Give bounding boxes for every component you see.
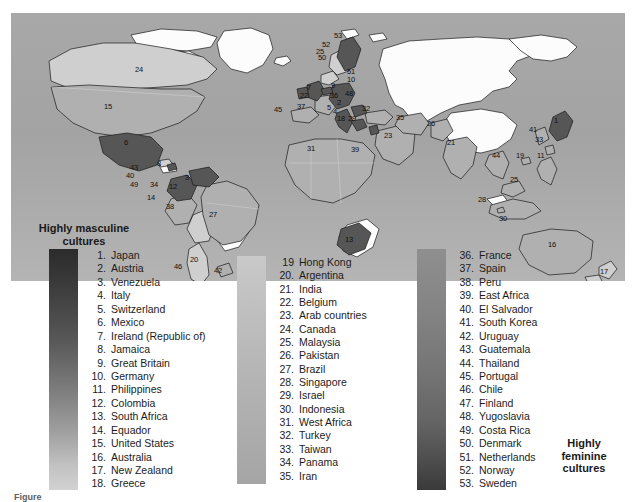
list-item: 14.Equador <box>89 424 206 437</box>
list-item-country: Arab countries <box>294 309 367 322</box>
list-item-number: 29. <box>277 389 294 402</box>
list-item-number: 34. <box>277 456 294 469</box>
list-item-number: 50. <box>457 437 474 450</box>
list-item-country: Finland <box>474 397 513 410</box>
list-item: 35.Iran <box>277 470 367 483</box>
list-item: 36.France <box>457 249 537 262</box>
list-item-country: Panama <box>294 456 338 469</box>
map-country-number: 12 <box>169 183 177 191</box>
list-item-number: 35. <box>277 470 294 483</box>
list-item-number: 11. <box>89 383 106 396</box>
list-item: 42.Uruguay <box>457 330 537 343</box>
country-list-2: 19Hong Kong20.Argentina21.India22.Belgiu… <box>266 256 367 483</box>
list-item: 24.Canada <box>277 323 367 336</box>
list-item: 6.Mexico <box>89 316 206 329</box>
legend-column-2: 19Hong Kong20.Argentina21.India22.Belgiu… <box>237 256 367 484</box>
list-item: 52.Norway <box>457 464 537 477</box>
list-item-country: Spain <box>474 262 506 275</box>
list-item: 2.Austria <box>89 262 206 275</box>
map-country-number: 14 <box>147 194 155 202</box>
list-item: 10.Germany <box>89 370 206 383</box>
map-country-number: 25 <box>510 176 518 184</box>
list-item-country: Israel <box>294 389 325 402</box>
list-item-country: New Zealand <box>106 464 173 477</box>
map-country-number: 50 <box>318 54 326 62</box>
list-item-country: Malaysia <box>294 336 340 349</box>
list-item-number: 27. <box>277 363 294 376</box>
list-item-country: Australia <box>106 451 152 464</box>
map-country-number: 9 <box>331 82 335 90</box>
list-item-country: Switzerland <box>106 303 165 316</box>
map-country-number: 27 <box>209 211 217 219</box>
map-country-number: 26 <box>427 120 435 128</box>
list-item-country: Hong Kong <box>294 256 352 269</box>
masculine-legend-title: Highly masculine cultures <box>14 222 154 247</box>
map-country-number: 1 <box>554 117 558 125</box>
list-item-country: Belgium <box>294 296 337 309</box>
list-item: 13.South Africa <box>89 410 206 423</box>
map-country-number: 23 <box>384 132 392 140</box>
list-item: 29.Israel <box>277 389 367 402</box>
list-item-country: Taiwan <box>294 443 332 456</box>
list-item: 46.Chile <box>457 383 537 396</box>
map-country-number: 18 <box>337 115 345 123</box>
caption-label: Figure <box>14 492 42 502</box>
list-item-number: 52. <box>457 464 474 477</box>
list-item-number: 36. <box>457 249 474 262</box>
map-country-number: 31 <box>307 145 315 153</box>
list-item-number: 39. <box>457 289 474 302</box>
list-item-number: 17. <box>89 464 106 477</box>
list-item: 41.South Korea <box>457 316 537 329</box>
list-item: 18.Greece <box>89 477 206 490</box>
list-item-number: 4. <box>89 289 106 302</box>
map-country-number: 29 <box>348 115 356 123</box>
map-country-number: 42 <box>214 267 222 275</box>
list-item-number: 20. <box>277 269 294 282</box>
list-item-number: 38. <box>457 276 474 289</box>
figure-caption: Figure <box>14 492 624 502</box>
map-country-number: 21 <box>447 139 455 147</box>
map-country-number: 2 <box>337 99 341 107</box>
masculine-title-line2: cultures <box>63 235 106 247</box>
list-item-country: Greece <box>106 477 145 490</box>
list-item: 43.Guatemala <box>457 343 537 356</box>
list-item: 53.Sweden <box>457 477 537 490</box>
list-item-number: 26. <box>277 349 294 362</box>
list-item: 51.Netherlands <box>457 451 537 464</box>
list-item-country: Equador <box>106 424 151 437</box>
list-item-number: 51. <box>457 451 474 464</box>
map-country-number: 39 <box>351 146 359 154</box>
list-item-country: Brazil <box>294 363 325 376</box>
list-item: 21.India <box>277 283 367 296</box>
legend-column-1: 1.Japan2.Austria3.Venezuela4.Italy5.Swit… <box>49 249 206 491</box>
list-item-country: Uruguay <box>474 330 519 343</box>
map-country-number: 6 <box>124 139 128 147</box>
map-country-number: 3 <box>185 174 189 182</box>
list-item: 50.Denmark <box>457 437 537 450</box>
list-item-number: 21. <box>277 283 294 296</box>
list-item: 1.Japan <box>89 249 206 262</box>
map-country-number: 13 <box>345 236 353 244</box>
list-item: 22.Belgium <box>277 296 367 309</box>
list-item-country: Japan <box>106 249 140 262</box>
map-country-number: 32 <box>362 105 370 113</box>
list-item-country: Canada <box>294 323 336 336</box>
list-item: 11.Philippines <box>89 383 206 396</box>
map-country-number: 34 <box>150 181 158 189</box>
list-item-country: Jamaica <box>106 343 150 356</box>
list-item: 33.Taiwan <box>277 443 367 456</box>
list-item-country: Denmark <box>474 437 522 450</box>
list-item-country: Guatemala <box>474 343 530 356</box>
list-item: 15.United States <box>89 437 206 450</box>
list-item: 25.Malaysia <box>277 336 367 349</box>
list-item-number: 31. <box>277 416 294 429</box>
list-item: 32.Turkey <box>277 429 367 442</box>
list-item: 20.Argentina <box>277 269 367 282</box>
list-item: 49.Costa Rica <box>457 424 537 437</box>
list-item-country: Argentina <box>294 269 344 282</box>
map-country-number: 45 <box>274 106 282 114</box>
list-item: 8.Jamaica <box>89 343 206 356</box>
list-item-country: South Korea <box>474 316 537 329</box>
list-item-country: Ireland (Republic of) <box>106 330 206 343</box>
list-item: 27.Brazil <box>277 363 367 376</box>
